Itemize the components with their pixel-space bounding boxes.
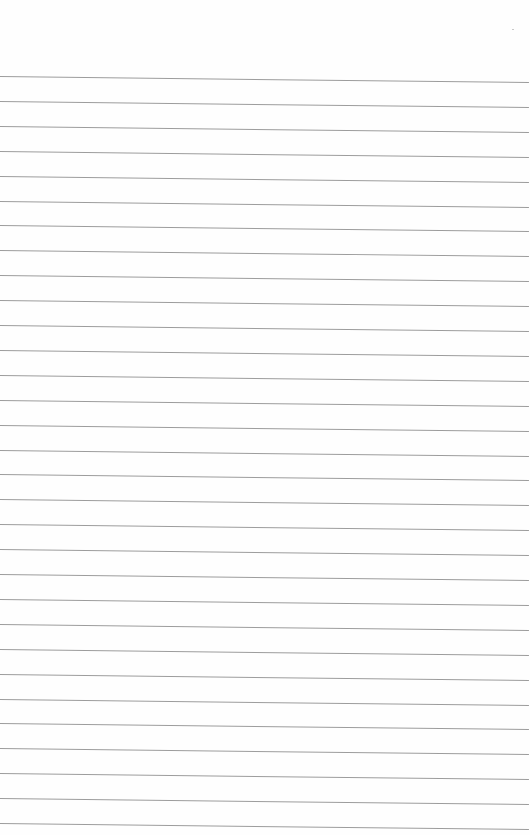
ruled-line bbox=[0, 624, 529, 631]
ruled-line bbox=[0, 76, 529, 83]
ruled-line bbox=[0, 574, 529, 581]
ruled-line bbox=[0, 126, 529, 133]
ruled-line bbox=[0, 599, 529, 606]
ruled-line bbox=[0, 524, 529, 531]
ruled-line bbox=[0, 400, 529, 407]
ruled-line bbox=[0, 699, 529, 706]
ruled-line bbox=[0, 350, 529, 357]
lined-paper-page bbox=[0, 0, 530, 835]
ruled-line bbox=[0, 549, 529, 556]
ruled-line bbox=[0, 450, 529, 457]
ruled-line bbox=[0, 674, 529, 681]
ruled-line bbox=[0, 748, 529, 755]
ruled-line bbox=[0, 375, 529, 382]
ruled-line bbox=[0, 151, 529, 158]
ruled-line bbox=[0, 300, 529, 307]
ruled-line bbox=[0, 325, 529, 332]
ruled-line bbox=[0, 723, 529, 730]
paper-speck bbox=[512, 29, 514, 30]
ruled-line bbox=[0, 425, 529, 432]
ruled-line bbox=[0, 101, 529, 108]
ruled-line bbox=[0, 250, 529, 257]
ruled-line bbox=[0, 773, 529, 780]
ruled-line bbox=[0, 225, 529, 232]
ruled-line bbox=[0, 649, 529, 656]
ruled-line bbox=[0, 798, 529, 805]
ruled-line bbox=[0, 275, 529, 282]
ruled-line bbox=[0, 499, 529, 506]
ruled-line bbox=[0, 176, 529, 183]
ruled-line bbox=[0, 823, 529, 830]
ruled-line bbox=[0, 474, 529, 481]
ruled-line bbox=[0, 201, 529, 208]
